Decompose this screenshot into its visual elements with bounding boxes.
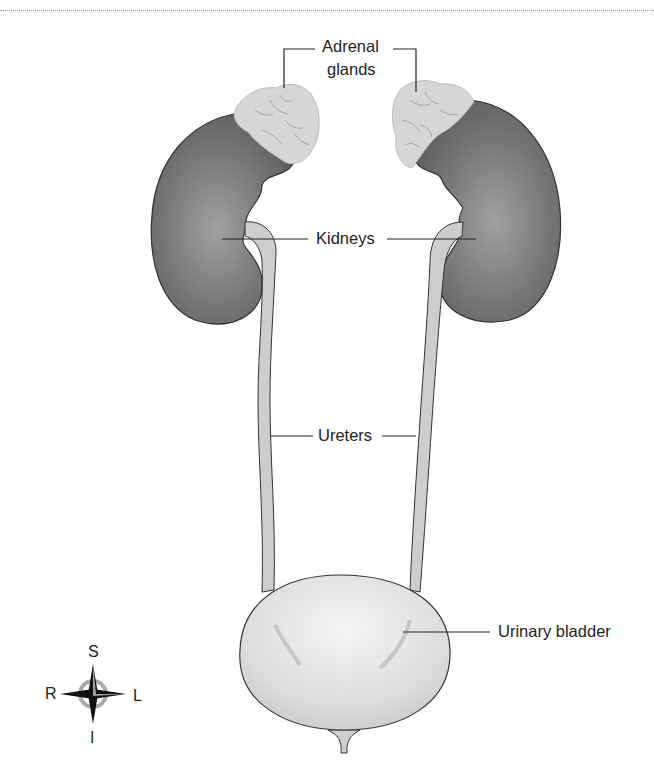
label-adrenal-line1: Adrenal: [322, 37, 379, 56]
label-adrenal-line2: glands: [327, 60, 376, 79]
label-kidneys: Kidneys: [316, 229, 375, 248]
compass-left: L: [133, 687, 142, 705]
label-ureters: Ureters: [318, 426, 372, 445]
label-urinary-bladder: Urinary bladder: [498, 622, 611, 641]
orientation-compass-icon: [60, 664, 126, 724]
compass-inferior: I: [90, 729, 94, 747]
urinary-bladder: [240, 575, 450, 753]
compass-superior: S: [88, 643, 99, 661]
compass-right: R: [45, 685, 57, 703]
